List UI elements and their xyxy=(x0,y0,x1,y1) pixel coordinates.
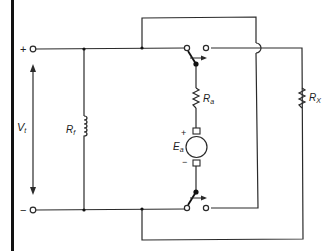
ra-resistor xyxy=(193,88,199,108)
emf-minus-sign: − xyxy=(182,157,187,167)
top-rail xyxy=(36,48,186,49)
vt-arrow-up-icon xyxy=(30,64,36,72)
border-bar xyxy=(11,0,14,251)
junction-dot xyxy=(140,46,143,49)
switch-arrow-icon xyxy=(201,196,207,201)
vt-label: Vt xyxy=(17,121,27,134)
positive-terminal xyxy=(30,46,36,52)
ea-label: Ea xyxy=(173,141,184,153)
bottom-loop-wire xyxy=(142,48,303,240)
ra-label: Ra xyxy=(203,93,214,105)
top-switch xyxy=(184,45,208,66)
generator-armature xyxy=(186,128,207,166)
switch-arrow-icon xyxy=(201,56,207,61)
junction-dot xyxy=(140,207,143,210)
top-loop-wire xyxy=(142,17,256,48)
crossover-down-wire xyxy=(211,53,258,208)
bottom-switch xyxy=(184,189,208,210)
rf-label: Rf xyxy=(66,124,76,136)
rx-label: RX xyxy=(309,92,321,104)
vt-arrow-down-icon xyxy=(30,187,36,195)
negative-terminal xyxy=(30,207,36,213)
bottom-rail xyxy=(36,209,186,210)
junction-dot xyxy=(82,47,85,50)
rf-field-coil xyxy=(84,116,87,137)
positive-sign: + xyxy=(20,43,26,55)
circuit-diagram: + − Vt Rf Ra RX Ea + − xyxy=(0,0,333,251)
emf-plus-sign: + xyxy=(181,128,186,138)
junction-dot xyxy=(82,208,85,211)
negative-sign: − xyxy=(20,204,26,216)
